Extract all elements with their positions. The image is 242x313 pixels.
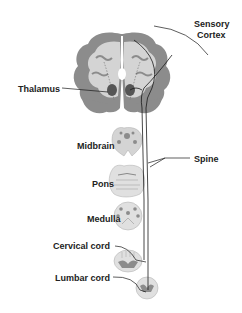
midbrain-section [112,128,142,157]
label-pons: Pons [92,179,114,189]
cervical-cord-section [114,250,142,272]
label-midbrain: Midbrain [77,141,115,151]
label-cervical-cord: Cervical cord [53,241,110,251]
label-spine: Spine [194,154,219,164]
brain-coronal-section [74,32,171,113]
label-thalamus: Thalamus [18,84,60,94]
pons-section [109,165,145,197]
label-lumbar-cord: Lumbar cord [55,273,110,283]
label-medulla: Medulla [87,214,121,224]
label-sensory-cortex-line2: Cortex [197,30,226,40]
thalamus-left [107,84,117,96]
label-sensory-cortex-line1: Sensory [194,19,230,29]
